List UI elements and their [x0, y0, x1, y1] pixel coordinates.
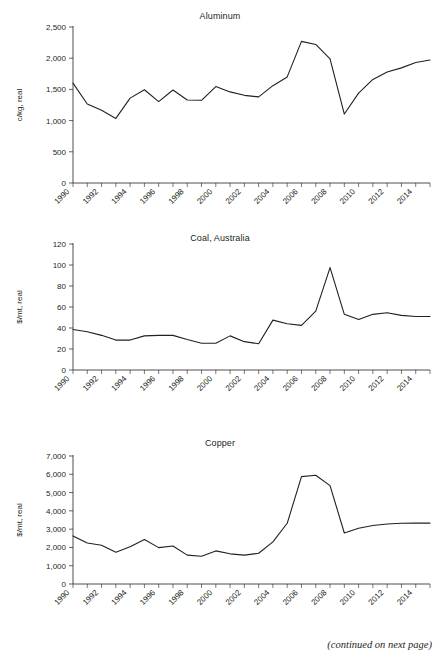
x-tick-label: 1998	[167, 374, 186, 393]
x-tick-label: 2002	[224, 588, 243, 607]
y-tick-label: 0	[62, 580, 67, 589]
y-tick-label: 2,000	[46, 54, 67, 63]
x-tick-label: 2014	[395, 187, 414, 206]
continued-note: (continued on next page)	[327, 639, 432, 650]
x-tick-label: 2002	[224, 187, 243, 206]
x-tick-label: 2008	[310, 374, 329, 393]
y-tick-label: 20	[57, 345, 66, 354]
y-tick-label: 0	[62, 179, 67, 188]
x-tick-label: 2010	[338, 374, 357, 393]
x-tick-label: 1998	[167, 187, 186, 206]
chart-coal-australia: 0204060801001201990199219941996199820002…	[0, 222, 440, 440]
x-tick-label: 2006	[281, 588, 300, 607]
y-axis-title: c/kg, real	[15, 89, 24, 122]
figure-page: Aluminum 05001,0001,5002,0002,5001990199…	[0, 0, 440, 658]
x-tick-label: 2000	[195, 187, 214, 206]
y-tick-label: 1,000	[46, 562, 67, 571]
y-tick-label: 2,500	[46, 23, 67, 32]
y-tick-label: 120	[53, 240, 67, 249]
x-tick-label: 1994	[110, 374, 129, 393]
y-axis-title: $/mt, real	[15, 503, 24, 537]
chart-panel-aluminum: Aluminum 05001,0001,5002,0002,5001990199…	[0, 0, 440, 228]
chart-panel-coal-australia: Coal, Australia 020406080100120199019921…	[0, 222, 440, 440]
y-tick-label: 1,000	[46, 117, 67, 126]
y-tick-label: 7,000	[46, 452, 67, 461]
x-tick-label: 2004	[252, 374, 271, 393]
x-tick-label: 2014	[395, 588, 414, 607]
x-tick-label: 2004	[252, 187, 271, 206]
x-tick-label: 1990	[52, 588, 71, 607]
x-tick-label: 2006	[281, 374, 300, 393]
x-tick-label: 1992	[81, 374, 100, 393]
y-tick-label: 4,000	[46, 507, 67, 516]
x-tick-label: 1996	[138, 588, 157, 607]
chart-copper: 01,0002,0003,0004,0005,0006,0007,0001990…	[0, 432, 440, 647]
series-line-coal-australia	[73, 268, 430, 344]
y-tick-label: 80	[57, 282, 66, 291]
x-tick-label: 2012	[367, 374, 386, 393]
x-tick-label: 2004	[252, 588, 271, 607]
x-tick-label: 2008	[310, 187, 329, 206]
y-tick-label: 2,000	[46, 543, 67, 552]
x-tick-label: 2014	[395, 374, 414, 393]
y-tick-label: 60	[57, 303, 66, 312]
x-tick-label: 2006	[281, 187, 300, 206]
x-tick-label: 1992	[81, 187, 100, 206]
y-tick-label: 3,000	[46, 525, 67, 534]
x-tick-label: 2010	[338, 187, 357, 206]
series-line-copper	[73, 475, 430, 556]
x-tick-label: 1990	[52, 187, 71, 206]
x-tick-label: 2000	[195, 588, 214, 607]
x-tick-label: 2008	[310, 588, 329, 607]
y-axis-title: $/mt, real	[15, 290, 24, 324]
x-tick-label: 1994	[110, 588, 129, 607]
y-tick-label: 500	[53, 148, 67, 157]
x-tick-label: 2002	[224, 374, 243, 393]
x-tick-label: 1998	[167, 588, 186, 607]
y-tick-label: 1,500	[46, 85, 67, 94]
y-tick-label: 0	[62, 366, 67, 375]
x-tick-label: 1992	[81, 588, 100, 607]
x-tick-label: 2010	[338, 588, 357, 607]
y-tick-label: 5,000	[46, 489, 67, 498]
chart-panel-copper: Copper 01,0002,0003,0004,0005,0006,0007,…	[0, 432, 440, 647]
x-tick-label: 1994	[110, 187, 129, 206]
chart-aluminum: 05001,0001,5002,0002,5001990199219941996…	[0, 0, 440, 228]
series-line-aluminum	[73, 41, 430, 118]
y-tick-label: 40	[57, 324, 66, 333]
y-tick-label: 100	[53, 261, 67, 270]
y-tick-label: 6,000	[46, 470, 67, 479]
x-tick-label: 2000	[195, 374, 214, 393]
x-tick-label: 1990	[52, 374, 71, 393]
x-tick-label: 2012	[367, 588, 386, 607]
x-tick-label: 1996	[138, 187, 157, 206]
x-tick-label: 1996	[138, 374, 157, 393]
x-tick-label: 2012	[367, 187, 386, 206]
